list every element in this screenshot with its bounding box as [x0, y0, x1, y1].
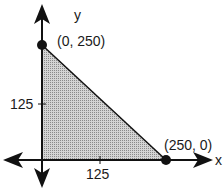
point-top	[37, 40, 47, 50]
x-axis-label: x	[215, 152, 222, 168]
point-right	[161, 155, 171, 165]
y-tick-label: 125	[10, 96, 34, 112]
diagram-canvas: y x (0, 250) (250, 0) 125 125	[0, 0, 223, 191]
point-top-label: (0, 250)	[57, 33, 105, 49]
point-right-label: (250, 0)	[164, 137, 212, 153]
y-axis-label: y	[74, 7, 81, 23]
x-tick-label: 125	[86, 166, 110, 182]
